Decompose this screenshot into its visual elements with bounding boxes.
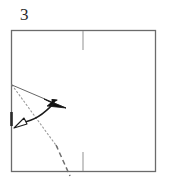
- origami-step-figure: 3: [0, 0, 169, 188]
- paper-square: [12, 31, 156, 172]
- diagram-canvas: [0, 0, 169, 188]
